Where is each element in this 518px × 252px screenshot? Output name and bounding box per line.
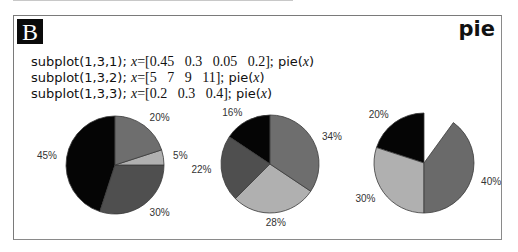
pie-charts: 45%30%5%20% 16%22%28%34% 20%30%40%	[0, 0, 518, 252]
pie-chart-1: 45%30%5%20%	[37, 112, 188, 218]
pie-slice	[424, 123, 474, 213]
pie-percent-label: 5%	[173, 150, 188, 161]
pie-percent-label: 22%	[191, 164, 211, 175]
pie-percent-label: 34%	[322, 131, 342, 142]
pie-chart-2: 16%22%28%34%	[191, 107, 342, 228]
pie-percent-label: 30%	[355, 193, 375, 204]
pie-chart-3: 20%30%40%	[355, 109, 501, 213]
pie-percent-label: 28%	[266, 217, 286, 228]
pie-percent-label: 20%	[369, 109, 389, 120]
pie-percent-label: 16%	[222, 107, 242, 118]
pie-percent-label: 20%	[150, 112, 170, 123]
pie-percent-label: 30%	[150, 207, 170, 218]
pie-percent-label: 40%	[481, 176, 501, 187]
pie-percent-label: 45%	[37, 150, 57, 161]
